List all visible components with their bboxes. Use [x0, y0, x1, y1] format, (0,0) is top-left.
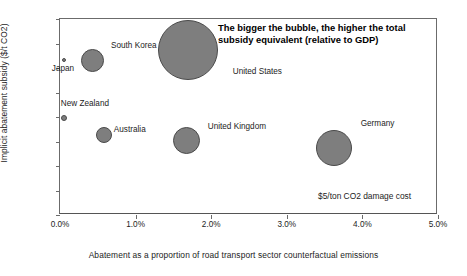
bubble-label: New Zealand: [61, 100, 109, 108]
x-tick-label: 4.0%: [332, 221, 392, 229]
data-bubble: [62, 58, 66, 62]
x-tick-mark: [211, 215, 212, 219]
bubble-label: Japan: [52, 65, 74, 73]
x-tick-label: 1.0%: [106, 221, 166, 229]
data-bubble: [173, 127, 200, 154]
bubble-size-callout: The bigger the bubble, the higher the to…: [218, 22, 418, 47]
y-tick-mark: [56, 93, 60, 94]
y-tick-mark: [56, 191, 60, 192]
damage-cost-note: $5/ton CO2 damage cost: [318, 191, 411, 201]
bubble-label: United Kingdom: [208, 123, 266, 131]
data-bubble: [61, 115, 67, 121]
x-tick-label: 0.0%: [30, 221, 90, 229]
data-bubble: [316, 130, 352, 166]
y-tick-mark: [56, 19, 60, 20]
bubble-label: South Korea: [111, 42, 157, 50]
y-tick-mark: [56, 166, 60, 167]
data-bubble: [158, 20, 218, 80]
x-tick-label: 5.0%: [408, 221, 467, 229]
x-tick-mark: [287, 215, 288, 219]
data-bubble: [96, 127, 112, 143]
plot-area: 01002003004005006007008000.0%1.0%2.0%3.0…: [59, 18, 437, 214]
bubble-label: Germany: [361, 120, 395, 128]
x-tick-label: 2.0%: [181, 221, 241, 229]
bubble-label: Australia: [114, 126, 146, 134]
y-tick-mark: [56, 142, 60, 143]
y-tick-mark: [56, 215, 60, 216]
x-axis-title: Abatement as a proportion of road transp…: [0, 250, 467, 260]
x-tick-mark: [136, 215, 137, 219]
x-tick-mark: [438, 215, 439, 219]
x-tick-label: 3.0%: [257, 221, 317, 229]
data-bubble: [81, 49, 104, 72]
y-tick-mark: [56, 117, 60, 118]
y-tick-mark: [56, 44, 60, 45]
bubble-label: United States: [233, 68, 282, 76]
bubble-chart: Implicit abatement subsidy ($/t CO2) 010…: [0, 0, 467, 276]
x-tick-mark: [362, 215, 363, 219]
y-axis-title: Implicit abatement subsidy ($/t CO2): [0, 0, 9, 213]
